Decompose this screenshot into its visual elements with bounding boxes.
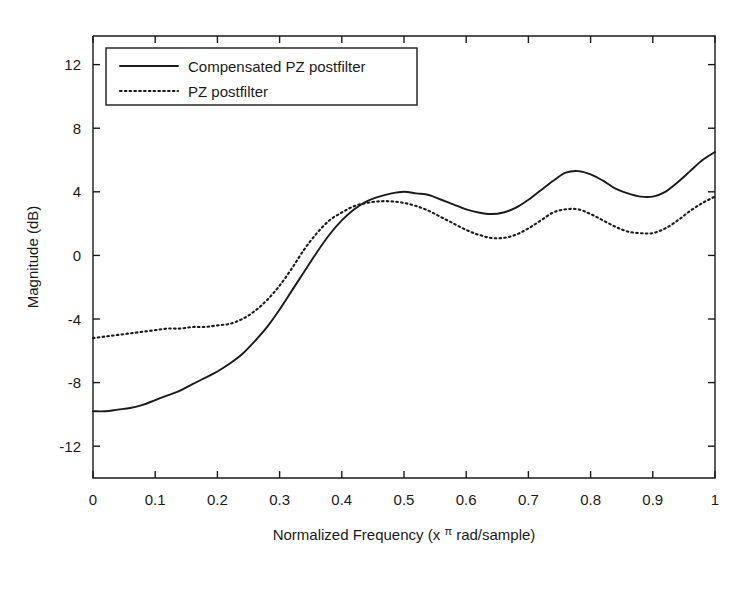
y-tick-label-0: -12 [59, 438, 81, 455]
y-tick-label-3: 0 [73, 247, 81, 264]
magnitude-response-chart: 00.10.20.30.40.50.60.70.80.91 -12-8-4048… [0, 0, 749, 589]
x-tick-label-6: 0.6 [456, 491, 477, 508]
x-tick-label-10: 1 [711, 491, 719, 508]
legend-label-1: PZ postfilter [188, 83, 268, 100]
x-tick-label-1: 0.1 [145, 491, 166, 508]
y-tick-label-5: 8 [73, 120, 81, 137]
x-tick-label-9: 0.9 [642, 491, 663, 508]
y-tick-label-2: -4 [68, 311, 81, 328]
y-tick-label-4: 4 [73, 183, 81, 200]
x-tick-label-7: 0.7 [518, 491, 539, 508]
x-tick-label-3: 0.3 [269, 491, 290, 508]
y-tick-label-6: 12 [64, 56, 81, 73]
x-tick-label-8: 0.8 [580, 491, 601, 508]
x-tick-label-5: 0.5 [394, 491, 415, 508]
x-axis-title: Normalized Frequency (x π rad/sample) [273, 525, 536, 543]
x-tick-label-0: 0 [89, 491, 97, 508]
y-axis-title: Magnitude (dB) [24, 206, 41, 309]
x-tick-label-2: 0.2 [207, 491, 228, 508]
legend-label-0: Compensated PZ postfilter [188, 58, 366, 75]
chart-legend: Compensated PZ postfilterPZ postfilter [106, 48, 417, 105]
y-tick-label-1: -8 [68, 374, 81, 391]
x-tick-label-4: 0.4 [331, 491, 352, 508]
